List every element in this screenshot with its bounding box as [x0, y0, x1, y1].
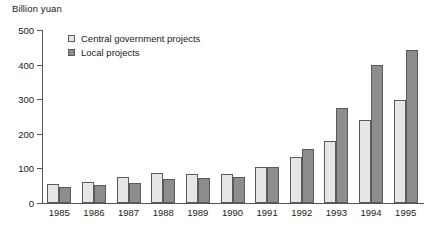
- bar-central-1988: [151, 173, 163, 203]
- bar-central-1993: [324, 141, 336, 203]
- x-axis-label-1993: 1993: [319, 207, 354, 218]
- y-axis-tick-label: 200: [0, 128, 34, 139]
- bar-central-1994: [359, 120, 371, 203]
- y-axis-tick-label: 400: [0, 59, 34, 70]
- bar-group: [290, 30, 314, 203]
- bar-central-1995: [394, 100, 406, 203]
- bar-local-1989: [198, 178, 210, 203]
- x-axis-label-1986: 1986: [77, 207, 112, 218]
- bar-local-1990: [233, 177, 245, 203]
- x-axis-label-1985: 1985: [42, 207, 77, 218]
- x-axis-label-1992: 1992: [284, 207, 319, 218]
- legend-label-central: Central government projects: [81, 33, 200, 44]
- bar-group: [255, 30, 279, 203]
- y-axis-unit-label: Billion yuan: [12, 3, 62, 14]
- bar-local-1988: [163, 179, 175, 203]
- x-axis-label-1989: 1989: [181, 207, 216, 218]
- bar-central-1991: [255, 167, 267, 203]
- bar-local-1991: [267, 167, 279, 203]
- bar-group: [324, 30, 348, 203]
- bar-central-1987: [117, 177, 129, 203]
- legend-label-local: Local projects: [81, 47, 140, 58]
- chart-figure: Billion yuan 0100200300400500 1985198619…: [0, 0, 435, 232]
- bar-local-1994: [371, 65, 383, 203]
- y-axis-tick-label: 500: [0, 25, 34, 36]
- legend-swatch-central-icon: [68, 35, 75, 42]
- bar-central-1989: [186, 174, 198, 203]
- bar-local-1985: [59, 187, 71, 203]
- bar-central-1985: [47, 184, 59, 203]
- y-axis-tick: [37, 203, 42, 204]
- chart-legend: Central government projects Local projec…: [68, 32, 200, 60]
- x-axis-line: [42, 203, 424, 204]
- x-axis-label-1987: 1987: [111, 207, 146, 218]
- y-axis-tick-label: 0: [0, 198, 34, 209]
- legend-item-central: Central government projects: [68, 32, 200, 45]
- bar-group: [221, 30, 245, 203]
- bar-central-1986: [82, 182, 94, 203]
- x-axis-label-1995: 1995: [388, 207, 423, 218]
- x-axis-label-1991: 1991: [250, 207, 285, 218]
- bar-group: [394, 30, 418, 203]
- bar-local-1987: [129, 183, 141, 203]
- bar-group: [359, 30, 383, 203]
- bar-local-1993: [336, 108, 348, 203]
- bar-central-1990: [221, 174, 233, 203]
- x-axis-label-1988: 1988: [146, 207, 181, 218]
- bar-local-1995: [406, 50, 418, 203]
- x-axis-label-1990: 1990: [215, 207, 250, 218]
- x-axis-label-1994: 1994: [354, 207, 389, 218]
- y-axis-tick-label: 100: [0, 163, 34, 174]
- y-axis-tick-label: 300: [0, 94, 34, 105]
- bar-local-1986: [94, 185, 106, 203]
- legend-swatch-local-icon: [68, 49, 75, 56]
- legend-item-local: Local projects: [68, 46, 200, 59]
- bar-central-1992: [290, 157, 302, 203]
- bar-local-1992: [302, 149, 314, 203]
